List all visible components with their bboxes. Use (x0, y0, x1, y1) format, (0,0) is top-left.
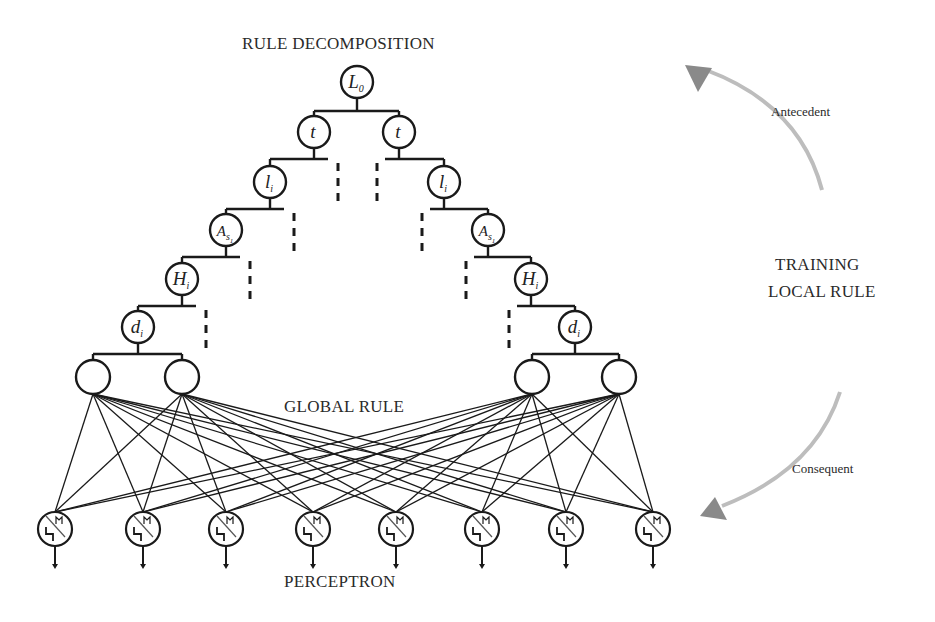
right-node-H: Hi (515, 263, 547, 295)
perceptron-node-7 (549, 512, 583, 569)
perceptron-node-8 (636, 512, 670, 569)
perceptron-node-6 (465, 512, 499, 569)
rule-decomposition-label: RULE DECOMPOSITION (242, 34, 435, 54)
perceptron-node-3 (209, 512, 243, 569)
hidden-layer (76, 360, 636, 394)
perceptron-node-2 (126, 512, 160, 569)
svg-text:t: t (395, 121, 401, 142)
local-rule-label: LOCAL RULE (768, 282, 876, 302)
left-node-A: As1 (210, 214, 242, 246)
hidden-node-3 (515, 360, 549, 394)
perceptron-node-5 (379, 512, 413, 569)
left-node-d: di (122, 311, 154, 343)
global-rule-label: GLOBAL RULE (284, 397, 404, 417)
right-node-A: As1 (472, 214, 504, 246)
right-node-l: li (428, 166, 460, 198)
right-node-d: di (559, 311, 591, 343)
hidden-node-4 (602, 360, 636, 394)
consequent-arrow (700, 392, 840, 520)
left-node-t: t (298, 116, 330, 148)
network-diagram: L0tliAs1HiditliAs1Hidi (0, 0, 935, 622)
antecedent-arrow (685, 65, 822, 190)
perceptron-node-4 (296, 512, 330, 569)
perceptron-node-1 (38, 512, 72, 569)
rule-decomposition-tree: L0tliAs1HiditliAs1Hidi (93, 66, 619, 360)
left-node-l: li (254, 166, 286, 198)
perceptron-label: PERCEPTRON (284, 572, 396, 592)
hidden-node-2 (165, 360, 199, 394)
left-node-H: Hi (166, 263, 198, 295)
perceptron-layer (38, 512, 670, 569)
svg-text:t: t (310, 121, 316, 142)
training-label: TRAINING (775, 255, 860, 275)
hidden-node-1 (76, 360, 110, 394)
antecedent-label: Antecedent (771, 104, 830, 120)
right-node-t: t (383, 116, 415, 148)
diagram-canvas: L0tliAs1HiditliAs1Hidi RULE DECOMPOSITIO… (0, 0, 935, 622)
consequent-label: Consequent (792, 461, 853, 477)
root-node-L0: L0 (341, 66, 373, 98)
